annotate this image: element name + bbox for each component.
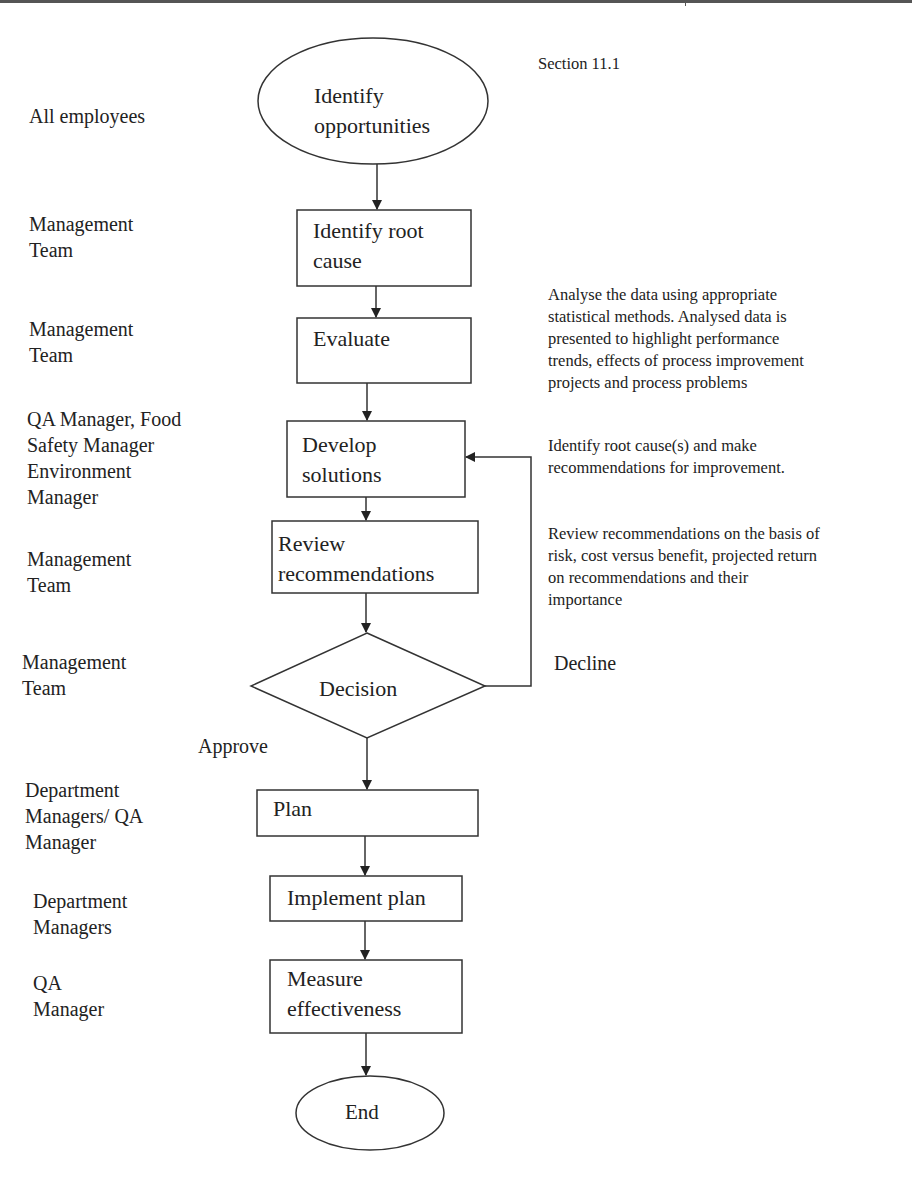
role-label-qa-food-env-managers: QA Manager, Food Safety Manager Environm… [27, 406, 181, 510]
node-measure-effectiveness: Measure effectiveness [287, 964, 401, 1024]
note-review-recommendations: Review recommendations on the basis of r… [548, 523, 820, 611]
node-develop-solutions: Develop solutions [302, 430, 381, 490]
role-label-management-team: Management Team [29, 316, 133, 368]
edge-decision-decline-loop [466, 457, 531, 686]
role-label-qa-manager: QA Manager [33, 970, 104, 1022]
role-label-management-team: Management Team [22, 649, 126, 701]
node-plan: Plan [273, 795, 312, 823]
role-label-all-employees: All employees [29, 103, 145, 129]
section-reference: Section 11.1 [538, 54, 620, 74]
note-analyse-data: Analyse the data using appropriate stati… [548, 284, 804, 394]
role-label-management-team: Management Team [27, 546, 131, 598]
edge-label-approve: Approve [198, 734, 268, 758]
node-identify-root-cause: Identify root cause [313, 216, 424, 276]
role-label-management-team: Management Team [29, 211, 133, 263]
node-implement-plan: Implement plan [287, 884, 426, 912]
edge-label-decline: Decline [554, 651, 616, 675]
node-identify-opportunities: Identify opportunities [314, 81, 430, 141]
node-end: End [345, 1098, 379, 1126]
role-label-dept-qa-managers: Department Managers/ QA Manager [25, 777, 143, 855]
node-evaluate: Evaluate [313, 325, 390, 353]
note-identify-root-causes: Identify root cause(s) and make recommen… [548, 435, 785, 479]
role-label-dept-managers: Department Managers [33, 888, 127, 940]
node-decision: Decision [319, 675, 397, 703]
node-review-recommendations: Review recommendations [278, 529, 434, 589]
